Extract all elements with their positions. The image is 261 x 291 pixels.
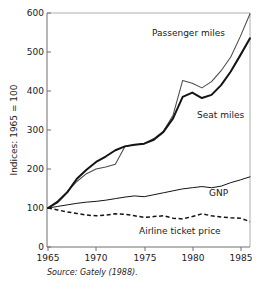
x-tick-label-1975: 1975 xyxy=(134,253,157,263)
y-tick-label-200: 200 xyxy=(27,164,44,174)
series-label-gnp: GNP xyxy=(209,188,229,198)
chart-figure: 600 500 400 300 200 100 0 1965 1970 1975… xyxy=(0,0,261,291)
x-tick-label-1985: 1985 xyxy=(230,253,253,263)
x-tick-label-1980: 1980 xyxy=(182,253,205,263)
y-tick-label-0: 0 xyxy=(38,242,44,252)
y-tick-label-300: 300 xyxy=(27,125,44,135)
y-tick-label-500: 500 xyxy=(27,47,44,57)
y-axis-title: Indices: 1965 = 100 xyxy=(9,84,19,175)
x-tick-label-1970: 1970 xyxy=(85,253,108,263)
y-tick-label-400: 400 xyxy=(27,86,44,96)
series-label-seat-miles: Seat miles xyxy=(197,110,244,120)
x-tick-label-1965: 1965 xyxy=(37,253,60,263)
series-label-airline-ticket-price: Airline ticket price xyxy=(139,226,221,236)
line-chart: 600 500 400 300 200 100 0 1965 1970 1975… xyxy=(0,0,261,291)
source-note: Source: Gately (1988). xyxy=(47,268,138,277)
y-tick-label-100: 100 xyxy=(27,203,44,213)
y-tick-label-600: 600 xyxy=(27,8,44,18)
series-label-passenger-miles: Passenger miles xyxy=(152,28,225,38)
